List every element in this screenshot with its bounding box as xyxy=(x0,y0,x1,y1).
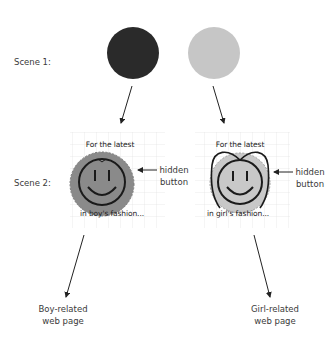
girl-banner-bottom-text: in girl's fashion... xyxy=(207,208,269,220)
girl-page-line2: web page xyxy=(251,315,299,327)
hidden-label-line2: button xyxy=(295,178,324,190)
girl-banner-top-text: For the latest xyxy=(216,139,264,151)
boy-page-label: Boy-related web page xyxy=(38,303,87,327)
boy-hidden-button-label: hidden button xyxy=(159,164,188,188)
boy-banner-top-text: For the latest xyxy=(86,139,134,151)
boy-banner-bottom-text: in boy's fashion... xyxy=(80,208,144,220)
hidden-label-line1: hidden xyxy=(295,166,324,178)
girl-page-line1: Girl-related xyxy=(251,303,299,315)
girl-page-label: Girl-related web page xyxy=(251,303,299,327)
girl-signal-circle xyxy=(188,27,240,79)
boy-page-line2: web page xyxy=(38,315,87,327)
arrow-boy-to-banner xyxy=(121,86,132,123)
hidden-label-line2: button xyxy=(159,176,188,188)
boy-page-line1: Boy-related xyxy=(38,303,87,315)
scene-2-label: Scene 2: xyxy=(14,178,51,188)
arrow-girl-to-page xyxy=(254,235,270,297)
arrow-boy-to-page xyxy=(66,235,84,297)
boy-signal-circle xyxy=(107,27,159,79)
girl-hidden-button-label: hidden button xyxy=(295,166,324,190)
hidden-label-line1: hidden xyxy=(159,164,188,176)
scene-1-label: Scene 1: xyxy=(14,57,51,67)
arrow-girl-to-banner xyxy=(213,86,224,123)
